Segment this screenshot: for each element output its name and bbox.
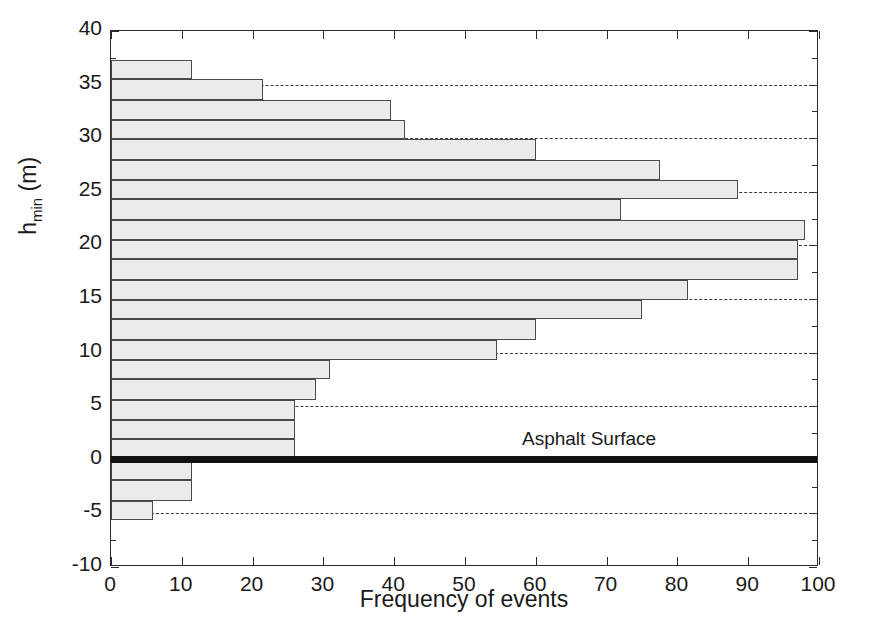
y-axis-tick-label: 25 — [42, 177, 102, 201]
histogram-bar — [111, 180, 738, 199]
histogram-bar — [111, 120, 405, 139]
histogram-bar — [111, 400, 295, 420]
x-axis-title: Frequency of events — [110, 586, 818, 613]
y-axis-tick-label: 0 — [42, 445, 102, 469]
histogram-bar — [111, 360, 330, 379]
histogram-bar — [111, 420, 295, 439]
histogram-bar — [111, 340, 497, 360]
histogram-bar — [111, 501, 153, 520]
histogram-bar — [111, 300, 642, 319]
bars-layer — [111, 31, 817, 565]
plot-area: Asphalt Surface — [110, 30, 818, 566]
histogram-figure: hmin (m) Asphalt Surface -10-50510152025… — [0, 0, 877, 622]
histogram-bar — [111, 460, 192, 480]
histogram-bar — [111, 319, 536, 339]
x-axis-tick — [819, 557, 820, 565]
histogram-bar — [111, 220, 805, 240]
y-axis-title: hmin (m) — [15, 195, 45, 235]
histogram-bar — [111, 60, 192, 79]
histogram-bar — [111, 160, 660, 180]
x-axis-tick — [819, 31, 820, 39]
histogram-bar — [111, 259, 798, 279]
y-axis-tick-label: 40 — [42, 16, 102, 40]
y-axis-tick-label: 5 — [42, 391, 102, 415]
histogram-bar — [111, 139, 536, 159]
y-axis-tick — [111, 567, 119, 568]
y-axis-title-subscript: min — [28, 198, 45, 222]
histogram-bar — [111, 240, 798, 259]
y-axis-tick-label: 20 — [42, 230, 102, 254]
y-axis-tick-label: 35 — [42, 70, 102, 94]
histogram-bar — [111, 280, 688, 300]
y-axis-title-base: h — [15, 222, 41, 235]
histogram-bar — [111, 439, 295, 459]
y-axis-tick-label: 10 — [42, 338, 102, 362]
y-axis-title-unit: (m) — [15, 157, 41, 198]
histogram-bar — [111, 379, 316, 399]
histogram-bar — [111, 480, 192, 500]
y-axis-tick — [809, 567, 817, 568]
y-axis-tick-label: -5 — [42, 498, 102, 522]
y-axis-tick-label: 15 — [42, 284, 102, 308]
histogram-bar — [111, 100, 391, 120]
histogram-bar — [111, 79, 263, 99]
histogram-bar — [111, 199, 621, 219]
y-axis-tick-label: 30 — [42, 123, 102, 147]
